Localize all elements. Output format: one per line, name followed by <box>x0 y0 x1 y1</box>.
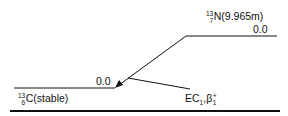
beta-indices: +1 <box>213 92 217 106</box>
branch-label-leader <box>128 78 190 89</box>
beta-branch-index: 1 <box>213 99 217 106</box>
parent-level-energy: 0.0 <box>253 23 268 35</box>
parent-atomic-number: 7 <box>210 17 214 24</box>
parent-half-life: (9.965m) <box>221 10 263 22</box>
daughter-atomic-number: 6 <box>22 99 26 106</box>
parent-nuclide-numbers: 13 7 <box>206 10 213 24</box>
ec-mode: EC <box>185 92 200 104</box>
daughter-nuclide-label: 13 6 C(stable) <box>18 92 68 106</box>
daughter-half-life: (stable) <box>33 92 68 104</box>
daughter-mass-number: 13 <box>18 92 25 99</box>
beta-charge: + <box>213 92 217 99</box>
parent-mass-number: 13 <box>206 10 213 17</box>
daughter-level-energy: 0.0 <box>96 75 111 87</box>
ec-branch-index: 1 <box>200 99 204 106</box>
transition-label: EC1,β+1 <box>185 92 217 106</box>
daughter-nuclide-numbers: 13 6 <box>18 92 25 106</box>
transition-arrow-line <box>119 36 186 85</box>
beta-mode: β <box>206 92 212 104</box>
arrow-head-icon <box>115 80 123 88</box>
